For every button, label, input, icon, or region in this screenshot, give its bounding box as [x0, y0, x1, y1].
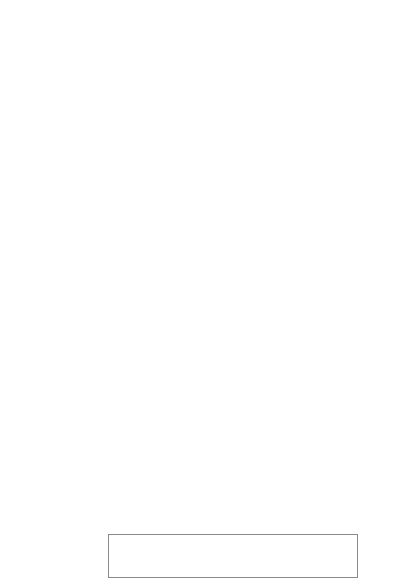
legend [108, 534, 358, 578]
top-chart-plot-area [57, 22, 376, 265]
bottom-chart-plot-area [57, 327, 376, 480]
